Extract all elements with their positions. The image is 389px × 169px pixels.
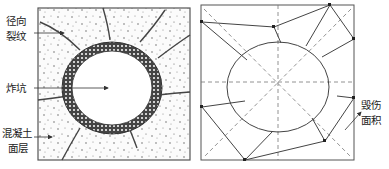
radial-crack-label-2: 裂纹 [6,29,26,43]
diagram-canvas [0,0,389,169]
concrete-label-1: 混凝土 [2,126,32,140]
radial-crack-label-1: 径向 [6,14,26,28]
damage-area-label-1: 毁伤 [361,98,381,112]
concrete-label-2: 面层 [8,141,28,155]
crater-panel [34,8,190,160]
crater-label: 炸坑 [6,81,26,95]
damage-panel [200,3,361,161]
damage-area-label-2: 面积 [361,113,381,127]
